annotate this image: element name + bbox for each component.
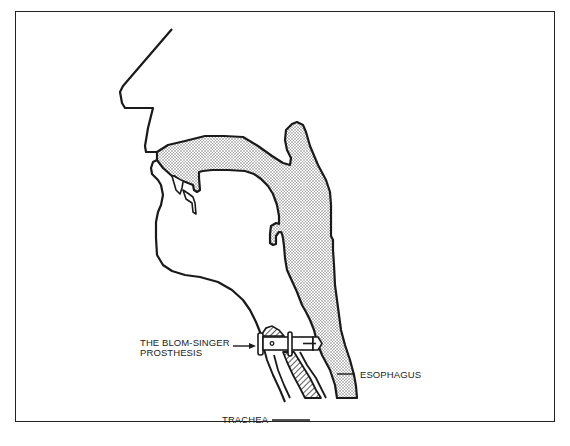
lower-teeth xyxy=(183,190,196,214)
prosthesis-label-line2: PROSTHESIS xyxy=(140,348,202,358)
anatomy-diagram xyxy=(0,0,570,446)
face-profile-outline xyxy=(120,29,172,152)
trachea-anterior-wall xyxy=(263,345,285,402)
tracheoesophageal-wall xyxy=(283,352,321,398)
stoma-tissue xyxy=(262,326,284,336)
chin-neck-outline xyxy=(151,160,263,345)
prosthesis-arrow xyxy=(233,343,256,349)
esophagus-label: ESOPHAGUS xyxy=(360,370,421,380)
trachea-label: TRACHEA xyxy=(222,415,268,425)
